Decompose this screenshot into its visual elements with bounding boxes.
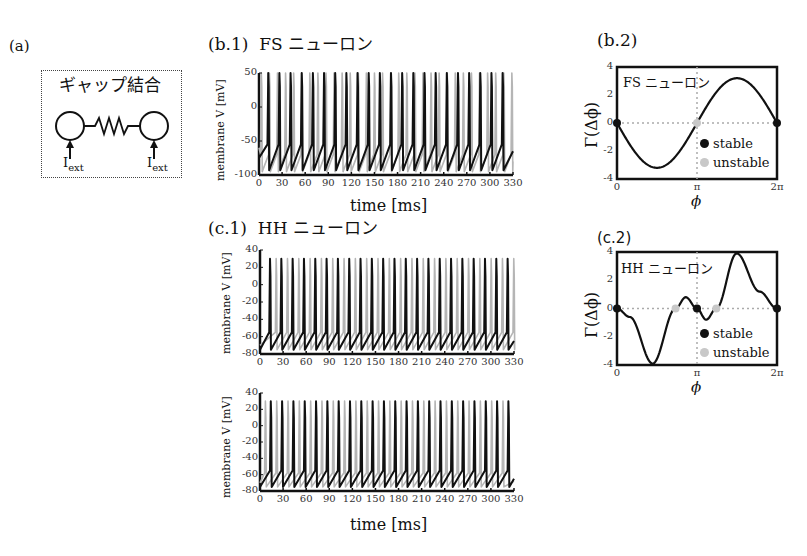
tick-label: -40 [242,451,258,462]
panel-b2-label: (b.2) [597,30,637,50]
tick-label: 180 [389,356,408,367]
tick-label: 180 [389,493,408,504]
gap-junction-diagram: ギャップ結合 Iext Iext [41,70,182,178]
tick-label: 0 [252,419,258,430]
tick-label: -40 [242,312,258,323]
tick-label: 210 [412,356,431,367]
tick-label: 2 [607,88,613,99]
tick-label: 0 [257,493,263,504]
tick-label: 30 [277,356,290,367]
tick-label: 2 [607,273,613,284]
tick-label: 150 [365,177,384,188]
tick-label: -2 [603,144,613,155]
tick-label: 2π [771,367,784,378]
panel-b1-title: (b.1) FS ニューロン [208,30,373,55]
tick-label: 60 [300,493,313,504]
tick-label: 20 [245,260,258,271]
panel-a-label: (a) [9,37,30,55]
tick-label: -4 [603,358,613,369]
tick-label: 300 [481,356,500,367]
panel-c2-label: (c.2) [597,229,631,247]
c2-legend-stable: stable [700,326,753,341]
tick-label: -80 [242,484,258,495]
panel-c1-title: (c.1) HH ニューロン [208,214,378,239]
tick-label: π [694,181,701,192]
tick-label: 30 [277,493,290,504]
tick-label: 270 [458,493,477,504]
tick-label: 90 [323,493,336,504]
tick-label: 120 [342,177,361,188]
tick-label: 240 [435,493,454,504]
tick-label: 120 [343,356,362,367]
c1-bottom-ylabel: membrane V [mV] [220,396,233,498]
tick-label: 270 [458,356,477,367]
b2-legend-unstable: unstable [700,155,770,170]
tick-label: 0 [257,356,263,367]
tick-label: 90 [323,356,336,367]
tick-label: 300 [481,493,500,504]
tick-label: 0 [252,278,258,289]
tick-label: -60 [242,330,258,341]
c2-inset-label: HH ニューロン [621,258,713,277]
c1-xlabel: time [ms] [350,515,427,534]
b1-ylabel: membrane V [mV] [214,79,227,181]
b2-xlabel: ϕ [691,192,701,210]
tick-label: 300 [480,177,499,188]
tick-label: 20 [245,402,258,413]
tick-label: 0 [256,177,262,188]
tick-label: -80 [242,347,258,358]
tick-label: 40 [245,243,258,254]
tick-label: 210 [411,177,430,188]
tick-label: 330 [503,177,522,188]
tick-label: 150 [366,356,385,367]
tick-label: 0 [614,367,620,378]
c2-legend-unstable: unstable [700,345,770,360]
c2-ylabel: Γ(Δϕ) [582,292,601,338]
hh-voltage-trace-chart-1 [260,250,514,354]
tick-label: 330 [504,356,523,367]
tick-label: π [694,367,701,378]
tick-label: 2π [771,181,784,192]
tick-label: 4 [607,60,613,71]
tick-label: 0 [614,181,620,192]
tick-label: 330 [504,493,523,504]
tick-label: -4 [603,172,613,183]
tick-label: -20 [242,295,258,306]
tick-label: 180 [388,177,407,188]
tick-label: 270 [457,177,476,188]
tick-label: 0 [607,302,613,313]
tick-label: 0 [607,116,613,127]
tick-label: 90 [322,177,335,188]
tick-label: -20 [242,435,258,446]
tick-label: 4 [607,245,613,256]
b1-xlabel: time [ms] [350,196,427,215]
iext-right-label: Iext [147,155,168,173]
b2-legend-stable: stable [700,136,753,151]
tick-label: 30 [276,177,289,188]
tick-label: 120 [343,493,362,504]
tick-label: 210 [412,493,431,504]
tick-label: 0 [251,100,257,111]
tick-label: 60 [299,177,312,188]
c2-xlabel: ϕ [691,378,701,396]
tick-label: 50 [244,66,257,77]
tick-label: -2 [603,330,613,341]
tick-label: -50 [241,134,257,145]
c1-top-ylabel: membrane V [mV] [220,252,233,354]
fs-voltage-trace-chart [259,73,513,175]
b2-ylabel: Γ(Δϕ) [582,102,601,148]
tick-label: 150 [366,493,385,504]
tick-label: 240 [434,177,453,188]
b2-inset-label: FS ニューロン [623,72,710,91]
tick-label: -100 [235,168,257,179]
hh-voltage-trace-chart-2 [260,393,514,491]
iext-left-label: Iext [63,155,84,173]
tick-label: 40 [245,386,258,397]
tick-label: -60 [242,468,258,479]
tick-label: 240 [435,356,454,367]
tick-label: 60 [300,356,313,367]
